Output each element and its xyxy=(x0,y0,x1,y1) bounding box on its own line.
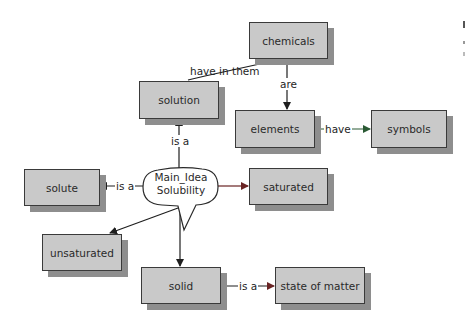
node-unsaturated[interactable]: unsaturated xyxy=(42,234,122,271)
link-label-is-a-state: is a xyxy=(238,280,258,292)
node-saturated[interactable]: saturated xyxy=(249,168,328,205)
concept-map-edges xyxy=(0,0,470,327)
cropped-text-fragment xyxy=(463,41,465,44)
node-label: symbols xyxy=(387,123,430,135)
node-solution[interactable]: solution xyxy=(139,81,219,119)
link-label-have-in-them: have in them xyxy=(189,65,260,77)
edge-main-unsaturated xyxy=(110,208,178,233)
node-elements[interactable]: elements xyxy=(235,110,315,148)
node-label: solid xyxy=(169,280,193,292)
node-label: elements xyxy=(251,123,300,135)
node-chemicals[interactable]: chemicals xyxy=(249,22,328,59)
node-label: solute xyxy=(46,182,78,194)
cropped-text-fragment xyxy=(463,52,465,56)
link-label-is-a-solute: is a xyxy=(115,180,135,192)
main-idea-node[interactable]: Main_Idea Solubility xyxy=(143,171,219,197)
node-label: saturated xyxy=(263,181,314,193)
link-label-is-a-solution: is a xyxy=(170,135,190,147)
link-label-are: are xyxy=(279,78,298,90)
cropped-text-fragment xyxy=(463,21,465,28)
node-label: state of matter xyxy=(280,280,359,292)
node-label: unsaturated xyxy=(50,247,114,259)
main-idea-line1: Main_Idea xyxy=(143,171,219,184)
main-idea-line2: Solubility xyxy=(143,184,219,197)
node-label: chemicals xyxy=(262,35,315,47)
node-solute[interactable]: solute xyxy=(24,169,100,206)
node-label: solution xyxy=(158,94,200,106)
node-symbols[interactable]: symbols xyxy=(371,110,447,148)
link-label-have: have xyxy=(324,123,352,135)
node-state-of-matter[interactable]: state of matter xyxy=(275,267,365,304)
node-solid[interactable]: solid xyxy=(141,267,221,304)
